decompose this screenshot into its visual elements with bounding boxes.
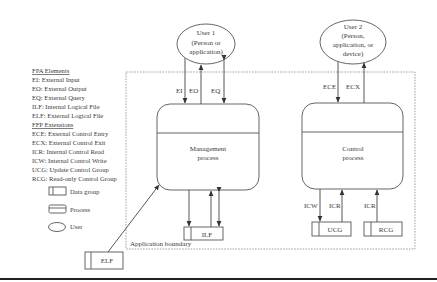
legend: FPA Elements EI: External Input EO: Exte… — [32, 67, 118, 232]
process-symbol-icon — [49, 205, 66, 213]
legend-item: ECE: External Control Entry — [32, 130, 109, 137]
ucg-data-group: UCG — [312, 222, 351, 236]
elf-data-group: ELF — [85, 252, 123, 269]
legend-ffp-title: FFP Extensions — [32, 121, 74, 128]
legend-item: EO: External Output — [32, 85, 87, 92]
svg-text:RCG: RCG — [379, 226, 393, 234]
svg-text:application, or: application, or — [333, 41, 374, 49]
flow-label-icr: ICR — [364, 202, 376, 210]
user-symbol-icon — [49, 223, 66, 232]
application-boundary-label: Application boundary — [130, 240, 192, 248]
legend-item: EQ: External Query — [32, 94, 85, 101]
legend-symbol-label: User — [70, 223, 83, 230]
flow-label-ece: ECE — [323, 83, 336, 91]
ilf-data-group: ILF — [184, 227, 223, 240]
svg-text:(Person or: (Person or — [192, 39, 222, 47]
control-process-node: Control process — [302, 103, 403, 189]
svg-text:ILF: ILF — [202, 231, 213, 239]
legend-item: RCG: Read-only Control Group — [32, 175, 118, 182]
legend-item: UCG: Update Control Group — [32, 166, 109, 173]
legend-item: ICR: Internal Control Read — [32, 148, 105, 155]
svg-text:Control: Control — [342, 145, 363, 153]
svg-text:device): device) — [343, 50, 364, 58]
data-group-symbol-icon — [49, 187, 66, 195]
svg-text:User 2: User 2 — [344, 23, 363, 31]
management-process-node: Management process — [157, 104, 259, 190]
bottom-rule — [0, 278, 437, 280]
legend-item: ILF: Internal Logical File — [32, 103, 100, 110]
flow-label-icw: ICW — [304, 202, 318, 210]
user-2-node: User 2 (Person, application, or device) — [320, 20, 386, 64]
legend-item: ELF: External Logical File — [32, 112, 103, 119]
legend-symbol-label: Process — [70, 206, 91, 213]
svg-text:process: process — [343, 154, 364, 162]
legend-symbol-label: Data group — [70, 188, 100, 195]
user-1-node: User 1 (Person or application) — [177, 24, 235, 64]
fpa-ffp-diagram: FPA Elements EI: External Input EO: Exte… — [0, 0, 437, 282]
legend-item: ECX: External Control Exit — [32, 139, 106, 146]
svg-text:Management: Management — [190, 145, 227, 153]
svg-text:application): application) — [189, 48, 223, 56]
svg-text:UCG: UCG — [328, 226, 343, 234]
flow-label-icr: ICR — [329, 202, 341, 210]
svg-text:User 1: User 1 — [197, 29, 216, 37]
legend-item: ICW: Internal Control Write — [32, 157, 107, 164]
flow-label-eq: EQ — [211, 87, 220, 95]
svg-text:(Person,: (Person, — [341, 32, 364, 40]
legend-fpa-title: FPA Elements — [32, 67, 70, 74]
flow-label-ecx: ECX — [346, 83, 360, 91]
flow-label-eo: EO — [189, 87, 198, 95]
svg-text:ELF: ELF — [101, 257, 114, 265]
flow-label-ei: EI — [176, 87, 183, 95]
rcg-data-group: RCG — [364, 222, 402, 236]
svg-text:process: process — [198, 154, 219, 162]
legend-item: EI: External Input — [32, 76, 80, 83]
